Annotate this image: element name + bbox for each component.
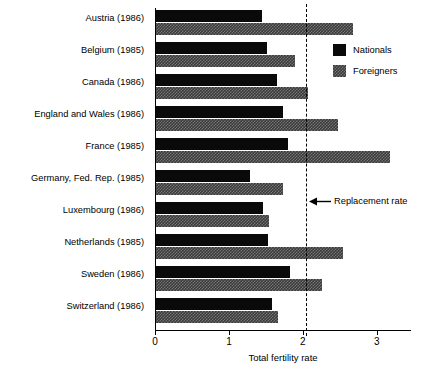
bar-nationals	[155, 266, 290, 278]
bar-foreigners	[155, 119, 338, 131]
legend-label-foreigners: Foreigners	[353, 66, 397, 76]
x-tick-label-1: 1	[219, 336, 239, 347]
fertility-rate-bar-chart: Austria (1986) Belgium (1985) Canada (19…	[0, 0, 433, 378]
left-arrow-icon	[309, 197, 331, 206]
category-label-sweden: Sweden (1986)	[0, 269, 144, 279]
category-label-switzerland: Switzerland (1986)	[0, 301, 144, 311]
bar-nationals	[155, 74, 277, 86]
bar-foreigners	[155, 279, 322, 291]
legend: Nationals Foreigners	[333, 44, 397, 86]
bar-foreigners	[155, 311, 278, 323]
x-tick-label-0: 0	[145, 336, 165, 347]
bar-nationals	[155, 106, 283, 118]
x-tick-3	[377, 330, 378, 335]
bar-foreigners	[155, 247, 343, 259]
category-label-netherlands: Netherlands (1985)	[0, 237, 144, 247]
x-tick-label-2: 2	[293, 336, 313, 347]
category-label-germany: Germany, Fed. Rep. (1985)	[0, 173, 144, 183]
bar-foreigners	[155, 87, 308, 99]
legend-item-nationals: Nationals	[333, 44, 397, 56]
x-tick-1	[229, 330, 230, 335]
replacement-rate-line	[306, 4, 307, 336]
bar-nationals	[155, 138, 288, 150]
category-label-england-and-wales: England and Wales (1986)	[0, 109, 144, 119]
category-label-belgium: Belgium (1985)	[0, 45, 144, 55]
replacement-rate-annotation: Replacement rate	[309, 196, 407, 206]
replacement-rate-label: Replacement rate	[334, 196, 407, 206]
legend-item-foreigners: Foreigners	[333, 65, 397, 77]
bar-foreigners	[155, 215, 269, 227]
bar-nationals	[155, 202, 263, 214]
category-label-canada: Canada (1986)	[0, 77, 144, 87]
x-axis-title: Total fertility rate	[155, 352, 411, 363]
x-tick-2	[303, 330, 304, 335]
y-axis-line	[155, 8, 156, 331]
bar-foreigners	[155, 151, 390, 163]
bar-nationals	[155, 42, 267, 54]
category-label-column: Austria (1986) Belgium (1985) Canada (19…	[0, 0, 144, 330]
bar-nationals	[155, 170, 250, 182]
bar-nationals	[155, 10, 262, 22]
x-axis-line	[155, 330, 411, 331]
bar-foreigners	[155, 183, 283, 195]
category-label-austria: Austria (1986)	[0, 13, 144, 23]
x-tick-0	[155, 330, 156, 335]
bar-nationals	[155, 234, 268, 246]
legend-swatch-foreigners	[333, 65, 346, 77]
bar-nationals	[155, 298, 272, 310]
legend-label-nationals: Nationals	[353, 45, 392, 55]
legend-swatch-nationals	[333, 44, 346, 56]
bar-foreigners	[155, 55, 295, 67]
x-tick-label-3: 3	[367, 336, 387, 347]
bar-foreigners	[155, 23, 353, 35]
category-label-france: France (1985)	[0, 141, 144, 151]
category-label-luxembourg: Luxembourg (1986)	[0, 205, 144, 215]
